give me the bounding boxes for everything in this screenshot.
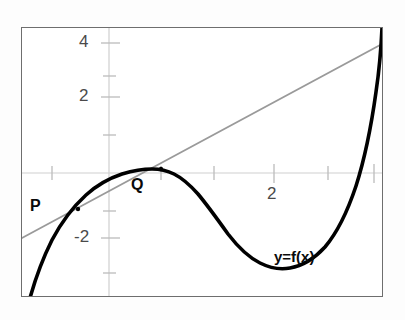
y-tick-label-2: 2	[79, 86, 88, 106]
point-p-marker	[76, 207, 80, 211]
y-tick-label-4: 4	[79, 32, 88, 52]
figure-canvas: 4 2 -2 2 P Q y=f(x)	[0, 0, 405, 320]
point-q-marker	[159, 167, 163, 171]
curve-name-label: y=f(x)	[274, 248, 314, 265]
point-label-q: Q	[131, 176, 143, 194]
plot-frame	[21, 27, 383, 297]
intersection-markers-layer	[22, 28, 383, 297]
y-tick-label-neg2: -2	[74, 227, 89, 247]
x-tick-label-2: 2	[267, 184, 276, 204]
point-label-p: P	[30, 197, 41, 215]
